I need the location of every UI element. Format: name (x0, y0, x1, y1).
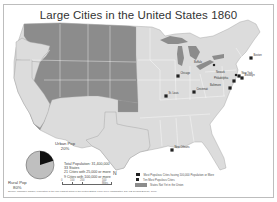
stat-cities-25000: 21 Cities with 25,000 or more (64, 170, 111, 174)
city-label: Newark (216, 71, 225, 74)
scale-bar: 0 100 200 500 Miles (62, 181, 112, 187)
legend-item-territories: States Not Yet in the Union (135, 182, 214, 187)
scale-label: 200 (80, 179, 84, 182)
city-label: St. Louis (169, 92, 179, 95)
side-credit: Map by Geography Department (4, 110, 10, 180)
city-marker (249, 56, 252, 59)
city-marker (232, 79, 235, 82)
urban-pop-label: Urban Pop 20% (55, 141, 75, 151)
scale-label: 100 (70, 179, 74, 182)
rural-pop-label: Rural Pop 80% (8, 180, 27, 190)
legend-item-large-cities: Most Populous Cities having 100,000 Popu… (135, 172, 214, 177)
city-label: Chicago (181, 72, 191, 75)
city-label: Philadelphia (214, 77, 228, 80)
legend-label: Ten Most Populous Cities (143, 178, 175, 182)
city-marker (164, 94, 167, 97)
city-label: Buffalo (194, 61, 202, 64)
city-marker (192, 90, 195, 93)
city-label: Baltimore (210, 84, 221, 87)
map-legend: Most Populous Cities having 100,000 Popu… (135, 172, 214, 187)
city-label: Boston (254, 54, 262, 57)
large-dot-icon (136, 173, 140, 177)
scale-label: 0 (61, 179, 62, 182)
city-marker (176, 74, 179, 77)
city-label: New Orleans (175, 146, 190, 149)
scale-tick (72, 182, 73, 185)
city-marker (240, 76, 243, 79)
city-label: Cincinnati (197, 88, 208, 91)
scale-label: 500 Miles (102, 179, 112, 185)
population-pie (26, 151, 54, 179)
north-arrow-icon: N (113, 170, 117, 176)
city-marker (228, 86, 231, 89)
city-label: Brooklyn (245, 74, 255, 77)
map-title: Large Cities in the United States 1860 (0, 9, 277, 21)
legend-label: Most Populous Cities having 100,000 Popu… (144, 173, 215, 177)
legend-label: States Not Yet in the Union (150, 183, 183, 187)
city-marker (237, 74, 240, 77)
scale-tick (82, 182, 83, 185)
city-marker (170, 148, 173, 151)
urban-value: 20% (55, 146, 75, 151)
city-marker (213, 64, 215, 66)
population-stats: Total Population: 31,400,000 33 States 2… (64, 162, 111, 179)
gray-swatch-icon (135, 183, 147, 187)
source-citation: Source: Campbell Gibson, Population of t… (8, 190, 157, 193)
scale-tick (62, 182, 63, 185)
city-marker (235, 74, 237, 76)
small-dot-icon (136, 178, 139, 181)
